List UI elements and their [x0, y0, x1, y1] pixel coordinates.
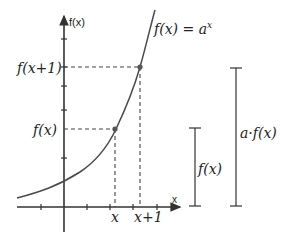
exponential-growth-diagram: f(x) = ax f(x) x f(x+1) f(x) x x+1 f(x) …	[0, 0, 293, 242]
x-axis-label: x	[172, 194, 177, 205]
y-label-fx1: f(x+1)	[16, 60, 62, 76]
bar-fx-label: f(x)	[197, 161, 222, 177]
x-label-x1: x+1	[134, 209, 163, 225]
point-fx1	[137, 64, 142, 69]
function-label: f(x) = ax	[153, 20, 212, 37]
y-axis-label: f(x)	[69, 16, 85, 28]
point-fx	[112, 126, 117, 131]
y-label-fx: f(x)	[32, 122, 57, 138]
x-label-x: x	[111, 209, 119, 225]
guide-lines	[64, 67, 140, 207]
bar-afx-label: a·f(x)	[240, 125, 277, 141]
exponential-curve	[17, 10, 155, 198]
